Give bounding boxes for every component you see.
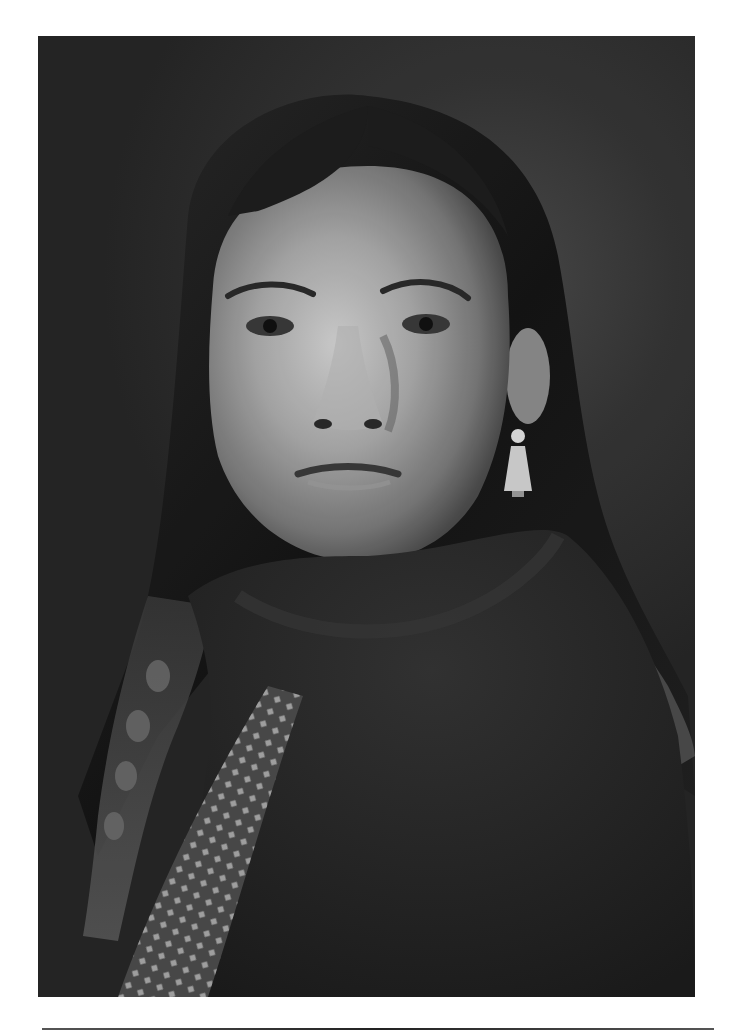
portrait-illustration <box>38 36 695 997</box>
page <box>0 0 732 1031</box>
portrait-photo <box>38 36 695 997</box>
bottom-rule <box>42 1028 714 1030</box>
